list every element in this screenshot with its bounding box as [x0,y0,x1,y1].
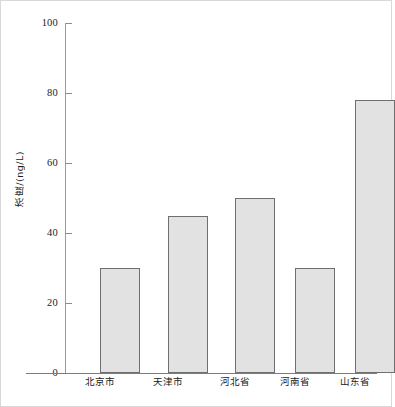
y-tick-label-80: 80 [18,88,58,99]
bars-layer [65,23,377,373]
bar-henan[interactable] [295,268,335,373]
y-tick-label-100: 100 [18,18,58,29]
x-tick-label-tianjin: 天津市 [133,377,203,387]
bar-beijing[interactable] [100,268,140,373]
bar-tianjin[interactable] [168,216,208,374]
x-tick-label-beijing: 北京市 [65,377,135,387]
bar-hebei[interactable] [235,198,275,373]
y-tick-label-40: 40 [18,228,58,239]
y-tick-label-60: 60 [18,158,58,169]
x-axis-line [26,373,377,374]
bar-shandong[interactable] [355,100,395,373]
x-tick-label-shandong: 山东省 [320,377,390,387]
y-tick-label-20: 20 [18,298,58,309]
